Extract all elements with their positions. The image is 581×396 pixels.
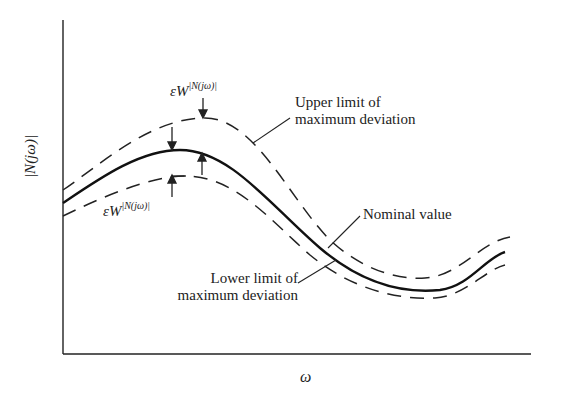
epsilon-top-base: εW <box>170 83 188 99</box>
lower-limit-label: Lower limit of maximum deviation <box>180 270 298 304</box>
arrow-nominal-down <box>168 127 176 150</box>
upper-label-leader <box>253 118 290 143</box>
deviation-diagram <box>0 0 581 396</box>
y-axis-label: |N(jω)| <box>22 135 39 178</box>
upper-limit-curve <box>63 118 510 278</box>
upper-label-line2: maximum deviation <box>295 111 415 128</box>
upper-limit-label: Upper limit of maximum deviation <box>295 94 415 128</box>
lower-label-line2: maximum deviation <box>140 287 298 304</box>
lower-label-leader <box>298 260 336 283</box>
upper-label-line1: Upper limit of <box>295 94 415 111</box>
epsilon-bottom-annotation: εW|N(jω)| <box>103 200 150 220</box>
epsilon-bottom-sup: |N(jω)| <box>121 200 150 211</box>
epsilon-top-sup: |N(jω)| <box>188 80 217 91</box>
nominal-label-leader <box>328 216 360 248</box>
arrow-nominal-up <box>198 153 206 175</box>
x-axis-label: ω <box>300 368 311 386</box>
epsilon-bottom-base: εW <box>103 203 121 219</box>
nominal-value-label: Nominal value <box>363 206 452 223</box>
epsilon-top-annotation: εW|N(jω)| <box>170 80 217 100</box>
lower-label-line1: Lower limit of <box>180 270 298 287</box>
arrow-bottom-epsilon <box>168 175 186 197</box>
arrow-top-epsilon <box>199 98 207 118</box>
nominal-label-text: Nominal value <box>363 206 452 223</box>
